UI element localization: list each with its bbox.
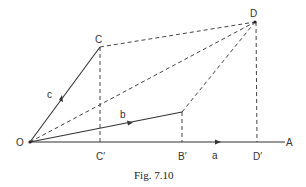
label-cprime: C′ xyxy=(96,151,105,162)
figure-caption: Fig. 7.10 xyxy=(134,169,174,181)
label-bprime: B′ xyxy=(178,151,187,162)
label-o: O xyxy=(16,137,24,148)
label-a: A xyxy=(286,137,293,148)
vector-label-a: a xyxy=(212,150,218,161)
arrow-a-icon xyxy=(215,140,221,145)
dashed-line-c-d xyxy=(100,22,255,47)
label-d: D xyxy=(250,8,257,19)
vector-label-b: b xyxy=(120,109,126,120)
vector-c-line xyxy=(30,47,100,142)
vector-label-c: c xyxy=(47,89,52,100)
vector-diagram: O C D C′ B′ D′ A a b c Fig. 7.10 xyxy=(0,0,306,187)
dashed-line-d-dprime xyxy=(256,22,257,142)
label-dprime: D′ xyxy=(253,151,262,162)
arrow-b-icon xyxy=(127,121,133,126)
vector-b-line xyxy=(30,112,182,142)
point-o xyxy=(28,140,31,143)
dashed-line-b-d xyxy=(182,22,255,112)
point-d xyxy=(253,20,256,23)
label-c: C xyxy=(95,34,102,45)
